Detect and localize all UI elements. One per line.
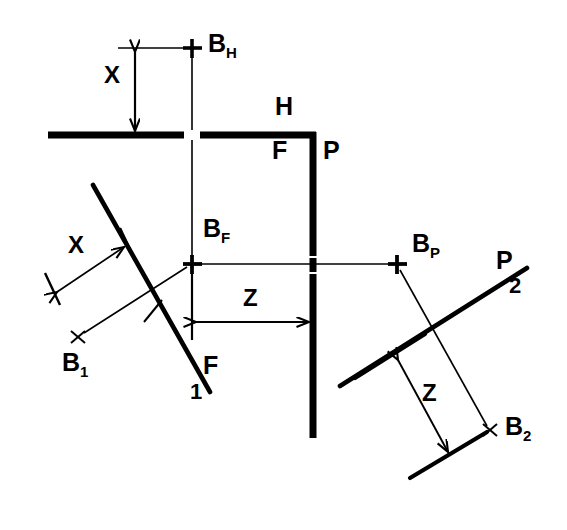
line-label-P2: P [496,248,513,273]
z-right-ext-upper [355,334,425,378]
z-right-arrow-line [398,360,448,452]
point-label-B1: B1 [62,350,88,379]
f1-crossing-tick [144,300,162,322]
point-marker-BP [388,255,407,274]
point-label-BF-base: B [203,214,221,242]
line-label-F1: F [203,353,218,378]
point-label-BH-base: B [208,29,226,57]
point-label-BF-subscript: F [221,229,230,246]
point-label-BF: BF [203,216,230,245]
point-label-B2: B2 [505,414,531,443]
p2-crossing-tick [434,314,455,327]
diagram-svg [0,0,567,530]
point-label-B1-base: B [62,348,80,376]
line-label-P2-subscript: 2 [509,275,521,297]
point-label-B1-subscript: 1 [80,363,88,380]
dimension-label-z-center: Z [243,286,258,310]
dimension-x-top [118,48,186,131]
dimension-label-x-top: X [104,63,120,87]
point-marker-BF [183,255,202,274]
point-label-BP-base: B [412,229,430,257]
point-label-BP-subscript: P [430,244,440,261]
b2-lead-line [400,270,487,426]
point-marker-B2 [483,424,497,436]
line-label-P: P [323,138,340,163]
point-label-BH: BH [208,31,237,60]
dimension-label-x-left: X [68,233,84,257]
point-marker-BH [183,39,202,58]
dimension-x-left [45,228,134,305]
line-label-H: H [275,94,293,119]
z-right-ext-lower [410,432,487,478]
line-label-F: F [272,138,287,163]
dimension-z-right [355,334,487,478]
point-label-BH-subscript: H [226,44,237,61]
dimension-label-z-right: Z [422,381,437,405]
diagram-canvas: BH BF BP B1 B2 H F P F 1 P 2 X X Z Z [0,0,567,530]
point-label-B2-subscript: 2 [523,427,531,444]
point-marker-B1 [71,331,85,343]
point-label-BP: BP [412,231,440,260]
x-left-ext-lower [45,273,60,305]
point-label-B2-base: B [505,412,523,440]
line-label-F1-subscript: 1 [190,381,202,403]
thick-datum-lines [48,132,316,438]
x-left-ext-upper [120,228,134,258]
